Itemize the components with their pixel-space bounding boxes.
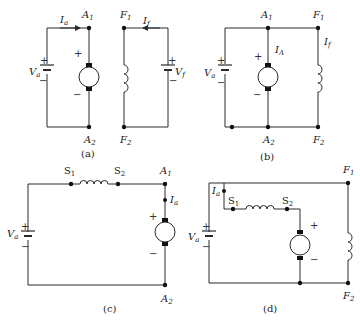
sign-minus: − [21, 241, 29, 252]
label-va: Va [204, 67, 215, 80]
node-a2 [163, 283, 167, 287]
node-bottom [298, 281, 302, 285]
armature-motor-symbol [290, 230, 310, 260]
label-a2: A2 [160, 293, 173, 306]
label-f2: F2 [312, 134, 325, 147]
label-s1: S1 [228, 195, 239, 208]
sign-minus: − [39, 75, 47, 86]
shunt-field-coil-icon [348, 233, 352, 260]
series-loop-wire [28, 184, 165, 285]
caption-a: (a) [81, 148, 95, 159]
label-ia: Ia [59, 14, 68, 27]
label-if: If [323, 36, 332, 49]
label-va: Va [188, 231, 199, 244]
caption-c: (c) [103, 303, 117, 314]
node-f2 [346, 281, 350, 285]
label-f2: F2 [119, 134, 132, 147]
label-va: Va [7, 228, 18, 241]
node-a1 [163, 182, 167, 186]
node-f2 [316, 125, 320, 129]
sign-plus: + [202, 221, 210, 232]
node-s2 [116, 182, 120, 186]
node-f1 [346, 181, 350, 185]
label-f1: F1 [312, 9, 324, 22]
shunt-outer-wire [225, 28, 318, 127]
node-bottom [230, 125, 234, 129]
label-f2: F2 [342, 290, 355, 303]
label-f1: F1 [342, 164, 354, 177]
label-a2: A2 [262, 134, 275, 147]
sign-plus: + [21, 221, 29, 232]
caption-b: (b) [260, 151, 274, 162]
node-ia [163, 198, 167, 202]
node-a1 [266, 26, 270, 30]
label-ia: Ia [211, 185, 220, 198]
node-f1 [316, 26, 320, 30]
panel-a-separately-excited: Ia A1 A2 F1 F2 If Va + − + − + − Vf (a) [29, 9, 186, 159]
label-a2: A2 [83, 134, 96, 147]
label-ia: IA [274, 44, 284, 57]
sign-plus: + [74, 48, 82, 59]
label-a1: A1 [260, 9, 273, 22]
sign-plus: + [40, 55, 48, 66]
node-ia [222, 189, 226, 193]
sign-minus: − [202, 241, 210, 252]
caption-d: (d) [263, 303, 277, 314]
armature-loop-wire [47, 28, 89, 127]
armature-motor-symbol [79, 63, 99, 91]
label-a1: A1 [81, 9, 94, 22]
label-a1: A1 [159, 165, 172, 178]
sign-plus: + [310, 220, 318, 231]
node-s1 [69, 182, 73, 186]
panel-c-series: S1 S2 A1 Ia A2 Va + − + − (c) [7, 165, 178, 314]
series-field-coil-icon [80, 181, 108, 185]
sign-minus: − [310, 254, 318, 265]
label-s2: S2 [282, 195, 293, 208]
node-a2 [87, 125, 91, 129]
panel-d-compound: F1 F2 Ia S1 S2 Va + − + − (d) [188, 164, 355, 314]
field-loop-wire [124, 28, 168, 127]
panel-b-shunt: A1 F1 A2 F2 IA If Va + − + − (b) [204, 9, 332, 162]
node-a1 [87, 26, 91, 30]
node-f1 [122, 26, 126, 30]
armature-motor-symbol [258, 63, 278, 91]
sign-minus: − [149, 248, 157, 259]
field-coil-icon [318, 65, 322, 92]
sign-plus: + [149, 211, 157, 222]
sign-minus: − [253, 89, 261, 100]
label-s1: S1 [64, 165, 75, 178]
sign-minus: − [73, 89, 81, 100]
label-f1: F1 [119, 9, 131, 22]
sign-minus: − [217, 77, 225, 88]
armature-motor-symbol [155, 218, 175, 246]
sign-plus: + [254, 51, 262, 62]
label-ia: Ia [169, 194, 178, 207]
sign-plus: + [217, 55, 225, 66]
label-if: If [142, 15, 151, 28]
field-coil-icon [124, 65, 128, 92]
series-field-coil-icon [246, 206, 274, 210]
dc-machine-connection-diagram: Ia A1 A2 F1 F2 If Va + − + − + − Vf (a) [0, 0, 360, 323]
label-s2: S2 [114, 165, 125, 178]
sign-plus: + [168, 55, 176, 66]
node-a2 [266, 125, 270, 129]
node-f2 [122, 125, 126, 129]
